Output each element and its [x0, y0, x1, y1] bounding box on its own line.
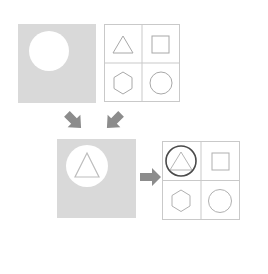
diagram-canvas — [0, 0, 268, 274]
plate-hole-graphic — [18, 24, 96, 103]
plate-result-graphic — [57, 139, 136, 218]
arrow-down-right-icon — [63, 110, 85, 132]
arrow-from-plate-to-result — [63, 110, 85, 132]
shape-grid-result-graphic — [162, 141, 240, 220]
arrow-from-result-to-grid — [140, 167, 162, 187]
shape-grid-initial-graphic — [104, 24, 180, 102]
arrow-from-grid-to-result — [103, 110, 125, 132]
circle-hole-icon — [29, 31, 69, 71]
circle-hole-icon — [66, 145, 108, 187]
shape-grid-result[interactable] — [162, 141, 240, 220]
gray-plate-with-circle-and-triangle[interactable] — [57, 139, 136, 218]
gray-plate-with-circle-hole[interactable] — [18, 24, 96, 103]
arrow-down-left-icon — [103, 110, 125, 132]
shape-grid-initial[interactable] — [104, 24, 180, 102]
arrow-right-icon — [140, 167, 162, 187]
